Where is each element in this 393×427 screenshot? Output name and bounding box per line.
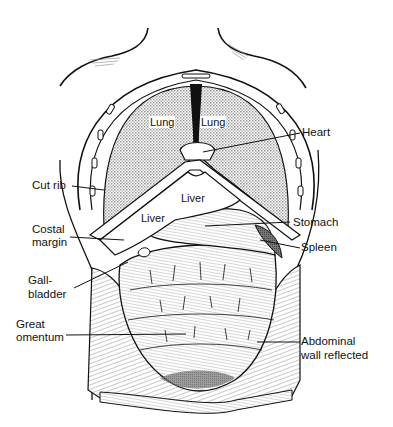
lung-right-label: Lung xyxy=(200,116,226,128)
cut-rib-label: Cut rib xyxy=(32,179,66,192)
costal-margin-label-1: Costal xyxy=(32,223,65,236)
liver-lower-label: Liver xyxy=(140,212,166,224)
anatomy-illustration xyxy=(0,0,393,427)
stomach-label: Stomach xyxy=(293,216,338,229)
liver-upper-label: Liver xyxy=(180,192,206,204)
abdominal-wall-label-1: Abdominal xyxy=(301,335,355,348)
abdominal-wall-label-2: wall reflected xyxy=(301,349,368,362)
costal-margin-label-2: margin xyxy=(32,236,67,249)
heart-label: Heart xyxy=(302,126,330,139)
lung-left-label: Lung xyxy=(149,116,175,128)
gallbladder xyxy=(138,248,150,257)
gallbladder-label-1: Gall- xyxy=(28,274,52,287)
shoulders-outline xyxy=(60,28,306,88)
spleen-label: Spleen xyxy=(301,241,337,254)
great-omentum-label-2: omentum xyxy=(16,331,64,344)
great-omentum-label-1: Great xyxy=(16,318,45,331)
heart xyxy=(180,143,215,161)
gallbladder-label-2: bladder xyxy=(28,288,66,301)
